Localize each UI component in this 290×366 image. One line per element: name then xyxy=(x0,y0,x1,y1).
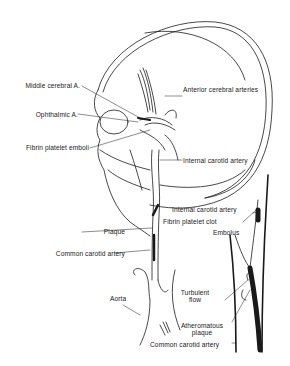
label-atheromatous-plaque: Atheromatous plaque xyxy=(174,322,230,336)
label-embolus: Embolus xyxy=(213,229,239,236)
label-athero-line1: Atheromatous xyxy=(174,322,230,329)
label-anterior-cerebral: Anterior cerebral arteries xyxy=(183,86,258,93)
label-common-carotid-1: Common carotid artery xyxy=(56,250,125,257)
label-ophthalmic: Ophthalmic A. xyxy=(36,111,78,118)
label-turbulent-line1: Turbulent xyxy=(172,289,218,296)
label-turbulent-line2: flow xyxy=(172,296,218,303)
label-athero-line2: plaque xyxy=(174,329,230,336)
label-plaque: Plaque xyxy=(104,228,125,235)
label-fibrin-clot: Fibrin platelet clot xyxy=(163,218,217,225)
label-internal-carotid-1: Internal carotid artery xyxy=(183,157,248,164)
label-turbulent-flow: Turbulent flow xyxy=(172,289,218,303)
label-common-carotid-2: Common carotid artery xyxy=(150,341,219,348)
face-outline xyxy=(94,90,150,236)
leader-lines xyxy=(78,86,258,343)
label-fibrin-emboli: Fibrin platelet emboli xyxy=(26,144,89,151)
label-middle-cerebral: Middle cerebral A. xyxy=(25,82,80,89)
carotid-bifurcation-detail xyxy=(230,175,268,352)
anatomy-illustration xyxy=(0,0,290,366)
internal-carotid-vessel xyxy=(152,150,160,280)
label-aorta: Aorta xyxy=(110,295,126,302)
label-internal-carotid-2: Internal carotid artery xyxy=(172,206,237,213)
cerebral-arteries xyxy=(138,68,178,160)
